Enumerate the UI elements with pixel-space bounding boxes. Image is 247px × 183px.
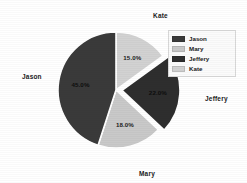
legend-item-mary[interactable]: Mary [172, 44, 231, 53]
legend-item-jason[interactable]: Jason [172, 34, 231, 43]
pie-outer-label-mary: Mary [139, 170, 155, 177]
pie-svg: 15.0% 22.0% 18.0% 45.0% [52, 22, 180, 158]
pie-outer-label-jeffery: Jeffery [205, 95, 228, 102]
legend-label: Jeffery [189, 54, 209, 63]
chart-legend: Jason Mary Jeffery Kate [168, 30, 236, 77]
legend-swatch-icon [172, 56, 185, 62]
pie-percent-label-jason: 45.0% [71, 81, 89, 88]
pie-chart-figure: Kate Jeffery Mary Jason 15.0% 22.0% 18.0… [0, 0, 247, 183]
pie-percent-label-mary: 18.0% [116, 121, 134, 128]
legend-label: Mary [189, 44, 203, 53]
pie-percent-label-jeffery: 22.0% [149, 89, 167, 96]
pie-outer-label-jason: Jason [22, 73, 42, 80]
legend-label: Jason [189, 34, 207, 43]
legend-swatch-icon [172, 46, 185, 52]
pie-percent-label-kate: 15.0% [123, 54, 141, 61]
legend-swatch-icon [172, 36, 185, 42]
legend-label: Kate [189, 64, 202, 73]
pie-outer-label-kate: Kate [153, 12, 168, 19]
legend-swatch-icon [172, 66, 185, 72]
legend-item-kate[interactable]: Kate [172, 64, 231, 73]
legend-item-jeffery[interactable]: Jeffery [172, 54, 231, 63]
